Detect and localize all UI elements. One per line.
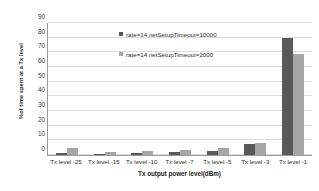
x-axis-tick-label: Tx level -15 [85,158,123,165]
bar-chart-figure: %of time spent at a Tx level 01020304050… [0,0,319,191]
x-axis-tick-labels: Tx level -25Tx level -15Tx level -10Tx l… [47,158,312,165]
y-axis-tick-label: 20 [38,115,45,122]
x-axis-tick-label: Tx level -1 [274,158,312,165]
x-axis-tick-label: Tx level -5 [198,158,236,165]
bar [169,152,180,155]
legend-entry: rate=14,netSetupTimeout=2000 [119,44,284,64]
x-axis-tick-label: Tx level -25 [47,158,85,165]
bar [255,143,266,155]
y-axis-tick-label: 70 [38,42,45,49]
y-axis-tick-label: 10 [38,130,45,137]
bar [207,151,218,155]
bar [131,153,142,155]
legend-entry: rate=14,netSetupTimeout=10000 [119,24,284,44]
x-axis-title: Tx output power level(dBm) [47,170,312,177]
y-axis-tick-label: 60 [38,57,45,64]
bar [105,152,116,155]
y-axis-title: %of time spent at a Tx level [18,14,24,149]
y-axis-tick-label: 90 [38,13,45,20]
bar [142,151,153,155]
y-axis-tick-label: 0 [41,145,45,152]
y-axis-tick-label: 30 [38,101,45,108]
legend-label: rate=14,netSetupTimeout=10000 [126,31,217,38]
legend-label: rate=14,netSetupTimeout=2000 [126,51,213,58]
y-axis-tick-label: 40 [38,86,45,93]
legend-swatch-icon [119,32,123,36]
bar [94,154,105,155]
bar [56,153,67,155]
y-axis-tick-label: 80 [38,27,45,34]
bar [67,148,78,155]
x-axis-tick-label: Tx level -7 [161,158,199,165]
x-axis-tick-label: Tx level -3 [236,158,274,165]
bar-group [86,23,124,155]
bar [180,150,191,155]
legend-swatch-icon [119,52,123,56]
x-axis-tick-label: Tx level -10 [123,158,161,165]
bar [244,144,255,155]
bar [293,54,304,155]
chart-legend: rate=14,netSetupTimeout=10000rate=14,net… [119,24,284,64]
bar [218,148,229,155]
bar-group [48,23,86,155]
y-axis-tick-label: 50 [38,71,45,78]
